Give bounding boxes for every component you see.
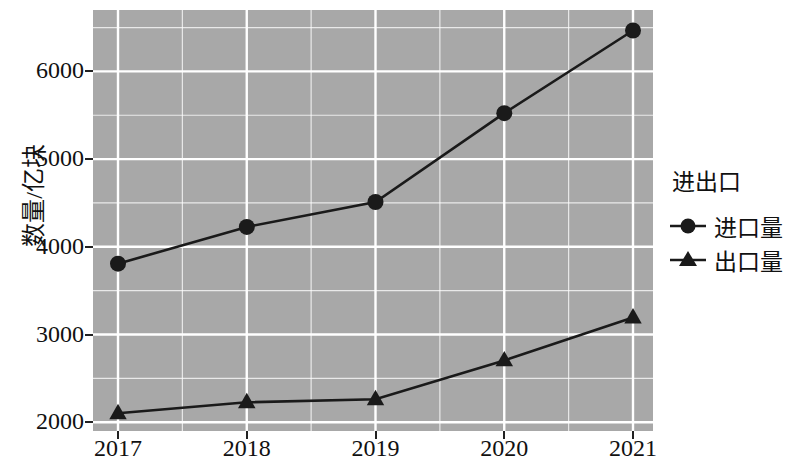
- y-tick-mark: [85, 421, 93, 423]
- data-point-circle: [368, 194, 384, 210]
- x-tick-mark: [503, 431, 505, 439]
- y-tick-label: 2000: [14, 409, 84, 433]
- x-tick-label: 2017: [73, 436, 163, 458]
- y-tick-mark: [85, 334, 93, 336]
- x-tick-mark: [117, 431, 119, 439]
- circle-marker-icon: [668, 213, 708, 239]
- x-tick-label: 2021: [588, 436, 678, 458]
- y-tick-label: 3000: [14, 322, 84, 346]
- y-tick-label: 5000: [14, 146, 84, 170]
- x-tick-mark: [246, 431, 248, 439]
- x-tick-mark: [632, 431, 634, 439]
- legend-label: 出口量: [714, 243, 783, 277]
- plot-svg: [93, 10, 653, 431]
- triangle-marker-icon: [668, 247, 708, 273]
- x-tick-label: 2018: [202, 436, 292, 458]
- legend-entry-2[interactable]: 出口量: [668, 243, 786, 277]
- y-tick-label: 4000: [14, 234, 84, 258]
- x-tick-mark: [375, 431, 377, 439]
- y-tick-mark: [85, 70, 93, 72]
- legend-entries: 进口量出口量: [668, 209, 786, 277]
- data-point-circle: [496, 105, 512, 121]
- data-point-circle: [625, 23, 641, 39]
- plot-area: [93, 10, 653, 431]
- y-tick-mark: [85, 158, 93, 160]
- legend-title: 进出口: [668, 163, 786, 197]
- y-tick-mark: [85, 246, 93, 248]
- data-point-circle: [110, 256, 126, 272]
- x-tick-label: 2020: [459, 436, 549, 458]
- data-point-circle: [239, 219, 255, 235]
- y-tick-label: 6000: [14, 58, 84, 82]
- data-point-triangle: [238, 393, 256, 408]
- x-tick-label: 2019: [331, 436, 421, 458]
- legend: 进出口 进口量出口量: [668, 163, 786, 277]
- line-chart: 数量/亿块 60005000400030002000 2017201820192…: [0, 0, 789, 458]
- data-point-triangle: [624, 308, 641, 323]
- legend-entry-1[interactable]: 进口量: [668, 209, 786, 243]
- legend-label: 进口量: [714, 209, 783, 243]
